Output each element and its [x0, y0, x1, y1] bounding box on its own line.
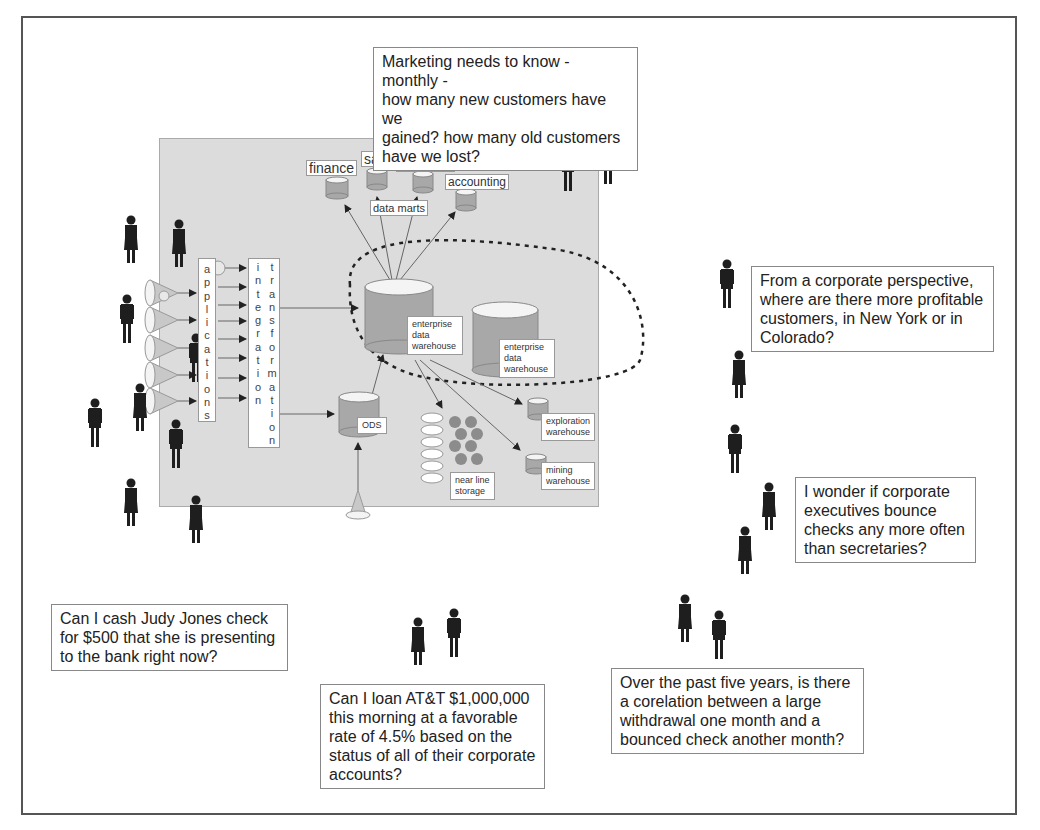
label-accounting: accounting	[445, 174, 509, 190]
label-mining-warehouse: miningwarehouse	[541, 462, 595, 490]
question-cash-check: Can I cash Judy Jones checkfor $500 that…	[51, 604, 288, 671]
question-correlation: Over the past five years, is therea core…	[611, 668, 864, 754]
label-data-marts: data marts	[370, 200, 428, 216]
question-corporate-perspective: From a corporate perspective,where are t…	[751, 266, 994, 352]
label-edw-secondary: enterprisedatawarehouse	[499, 339, 555, 378]
question-marketing: Marketing needs to know - monthly -how m…	[373, 47, 638, 171]
applications-box: applications	[198, 258, 216, 422]
question-executives-bounce: I wonder if corporateexecutives bouncech…	[795, 477, 976, 563]
label-near-line-storage: near linestorage	[450, 472, 495, 500]
label-finance: finance	[306, 160, 357, 176]
question-loan: Can I loan AT&T $1,000,000this morning a…	[320, 684, 545, 789]
people-figures	[88, 122, 776, 666]
label-ods: ODS	[357, 417, 387, 434]
label-exploration-warehouse: explorationwarehouse	[541, 413, 595, 441]
integration-box: integration transformation	[248, 258, 280, 448]
label-edw-primary: enterprisedatawarehouse	[407, 316, 463, 355]
